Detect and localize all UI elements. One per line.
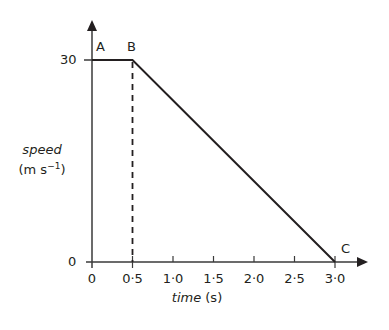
y-axis-label: speed (m s−1) [19,142,66,178]
x-tick-label-0-5: 0·5 [122,271,143,286]
x-tick-label-0: 0 [88,271,96,286]
x-axis-label-quantity: time [172,290,201,305]
x-tick-label-2-5: 2·5 [284,271,305,286]
y-tick-label-30: 30 [60,52,77,67]
point-label-b: B [127,39,136,54]
y-axis-label-unit: (m s−1) [19,158,66,178]
x-axis-label-unit: (s) [205,290,222,305]
speed-line [92,60,335,262]
point-label-a: A [96,39,105,54]
point-label-c: C [341,241,350,256]
x-tick-label-1-5: 1·5 [203,271,224,286]
y-tick-label-0: 0 [68,254,76,269]
x-axis-label: time (s) [172,290,222,305]
x-tick-label-3-0: 3·0 [325,271,346,286]
y-axis-label-quantity: speed [19,142,66,158]
y-axis-arrow-icon [87,20,97,31]
x-tick-label-1-0: 1·0 [163,271,184,286]
x-axis-arrow-icon [357,257,368,267]
x-tick-label-2-0: 2·0 [244,271,265,286]
